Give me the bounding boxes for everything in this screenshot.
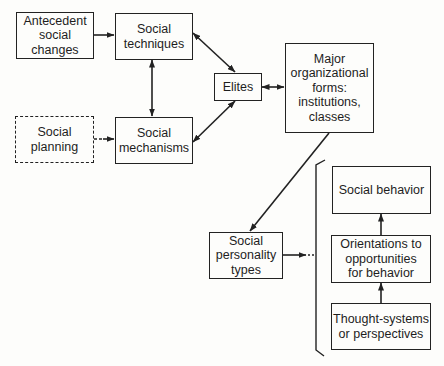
node-orientations: Orientations to opportunities for behavi… [331,235,431,283]
node-elites: Elites [214,73,262,101]
node-antecedent-social-changes: Antecedent social changes [16,12,94,59]
arrow-mechanisms-elites [193,101,235,142]
node-social-planning: Social planning [15,116,94,163]
diagram-canvas: Antecedent social changes Social techniq… [0,0,444,366]
node-social-techniques: Social techniques [115,13,193,60]
arrow-techniques-elites [193,33,235,72]
arrow-major-personality [250,133,329,231]
node-social-behavior: Social behavior [332,166,431,214]
node-social-mechanisms: Social mechanisms [115,117,193,164]
group-bracket [316,160,325,356]
node-social-personality-types: Social personality types [209,232,283,279]
node-major-organizational-forms: Major organizational forms: institutions… [285,43,374,133]
node-thought-systems: Thought-systems or perspectives [331,303,431,350]
